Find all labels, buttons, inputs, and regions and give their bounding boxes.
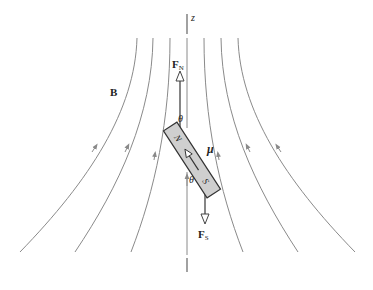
force-north-label: FN	[172, 58, 184, 72]
magnetic-moment-label: μ	[206, 142, 214, 156]
field-lines-left	[20, 38, 170, 252]
angle-label-top: θ	[178, 113, 183, 124]
magnetic-field-label: B	[110, 86, 118, 98]
field-line-right-2	[221, 38, 298, 252]
bar-magnet: N S	[164, 122, 221, 198]
field-line-left-2	[75, 38, 153, 252]
magnetic-dipole-diagram: z B FN FS θ θ N	[0, 0, 373, 290]
force-south-label: FS	[198, 228, 209, 242]
z-axis-label: z	[190, 12, 195, 23]
field-line-left-1	[20, 38, 137, 252]
field-arrows-right	[218, 146, 281, 160]
field-arrows-left	[92, 146, 155, 160]
field-line-right-3	[238, 38, 355, 252]
field-lines-right	[204, 38, 355, 252]
